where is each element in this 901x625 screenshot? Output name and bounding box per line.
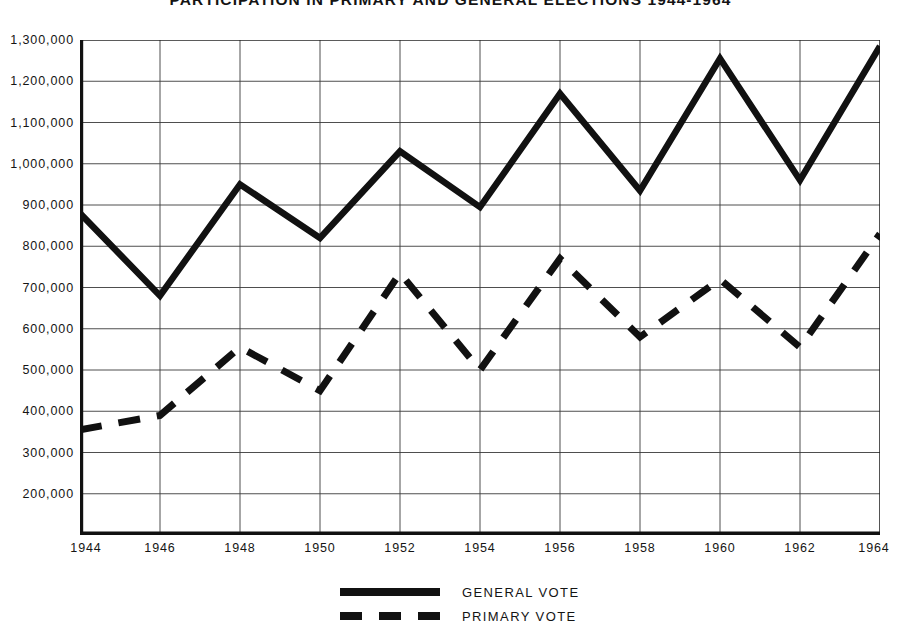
x-tick-label: 1964: [858, 541, 889, 555]
x-tick-label: 1960: [704, 541, 735, 555]
legend-dashed-line-icon: [340, 612, 440, 620]
y-tick-label: 400,000: [2, 404, 74, 418]
y-tick-label: 1,200,000: [2, 74, 74, 88]
x-axis-labels: 1944194619481950195219541956195819601962…: [80, 541, 880, 561]
y-tick-label: 300,000: [2, 446, 74, 460]
x-tick-label: 1950: [304, 541, 335, 555]
x-tick-label: 1944: [70, 541, 101, 555]
chart-legend: GENERAL VOTEPRIMARY VOTE: [340, 580, 670, 625]
x-tick-label: 1948: [224, 541, 255, 555]
y-axis-labels: 200,000300,000400,000500,000600,000700,0…: [0, 0, 74, 618]
y-tick-label: 700,000: [2, 281, 74, 295]
y-tick-label: 600,000: [2, 322, 74, 336]
chart-title: PARTICIPATION IN PRIMARY AND GENERAL ELE…: [0, 0, 901, 9]
plot-area: [80, 40, 880, 535]
y-tick-label: 1,300,000: [2, 33, 74, 47]
legend-label: GENERAL VOTE: [462, 585, 579, 600]
y-tick-label: 1,000,000: [2, 157, 74, 171]
x-tick-label: 1952: [384, 541, 415, 555]
legend-item: PRIMARY VOTE: [340, 604, 670, 625]
y-tick-label: 800,000: [2, 239, 74, 253]
y-tick-label: 1,100,000: [2, 116, 74, 130]
x-tick-label: 1946: [144, 541, 175, 555]
plot-svg: [80, 40, 880, 535]
y-tick-label: 200,000: [2, 487, 74, 501]
legend-solid-line-icon: [340, 588, 440, 596]
x-tick-label: 1956: [544, 541, 575, 555]
legend-label: PRIMARY VOTE: [462, 609, 577, 624]
y-tick-label: 500,000: [2, 363, 74, 377]
legend-item: GENERAL VOTE: [340, 580, 670, 604]
y-tick-label: 900,000: [2, 198, 74, 212]
x-tick-label: 1958: [624, 541, 655, 555]
x-tick-label: 1962: [784, 541, 815, 555]
x-tick-label: 1954: [464, 541, 495, 555]
